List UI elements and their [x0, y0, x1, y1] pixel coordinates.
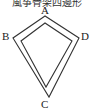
inner-kite [21, 23, 72, 87]
vertex-label-c: C [41, 98, 48, 109]
vertex-label-a: A [41, 4, 49, 16]
vertex-label-d: D [81, 30, 89, 42]
outer-kite [13, 16, 79, 97]
kite-diagram: A B C D [0, 0, 94, 109]
vertex-label-b: B [2, 30, 9, 42]
